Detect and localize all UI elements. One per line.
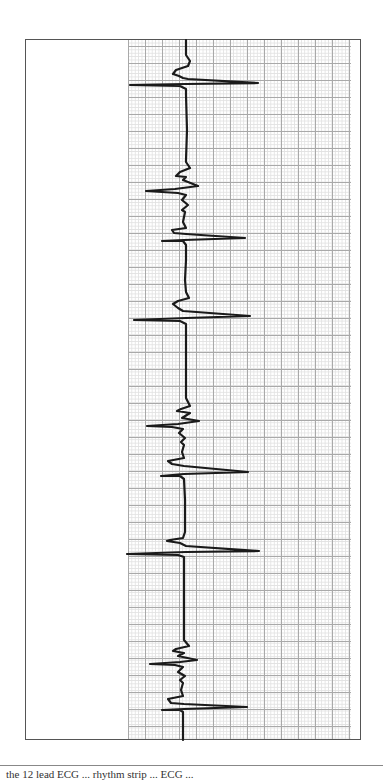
caption-separator <box>0 765 383 766</box>
ecg-grid-paper <box>128 40 351 739</box>
figure-caption: the 12 lead ECG ... rhythm strip ... ECG… <box>6 767 194 781</box>
